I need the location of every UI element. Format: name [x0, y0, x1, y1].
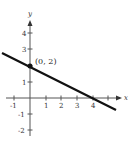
y-tick-label: 3 [22, 46, 26, 54]
coordinate-plot: -1 1 2 3 4 x 4 3 1 -1 -2 y (0, 2) [0, 0, 133, 146]
y-axis-label: y [27, 10, 33, 18]
x-tick-label: 2 [59, 102, 63, 110]
x-tick-label: -1 [10, 102, 17, 110]
y-tick-label: -2 [18, 127, 25, 135]
y-tick-label: 4 [22, 30, 27, 38]
x-axis-label: x [124, 94, 128, 102]
y-axis-arrow-icon [28, 20, 33, 26]
x-tick-label: 4 [91, 102, 96, 110]
y-tick-label: 1 [22, 79, 26, 87]
x-tick-label: 1 [44, 102, 48, 110]
x-axis-arrow-icon [116, 96, 122, 101]
x-tick-label: 3 [75, 102, 79, 110]
point-label: (0, 2) [35, 57, 57, 66]
y-tick-label: -1 [18, 111, 25, 119]
point-marker [28, 64, 33, 69]
